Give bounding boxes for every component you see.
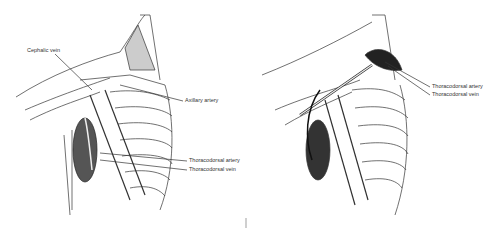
right-panel-drawing — [262, 15, 408, 215]
label-thoracodorsal-artery-right: Thoracodorsal artery — [432, 84, 483, 90]
label-axillary-artery: Axillary artery — [185, 98, 218, 104]
label-thoracodorsal-artery-left: Thoracodorsal artery — [189, 158, 240, 164]
label-cephalic-vein: Cephalic vein — [27, 48, 60, 54]
label-thoracodorsal-vein-right: Thoracodorsal vein — [432, 92, 479, 98]
left-panel-drawing — [16, 15, 172, 215]
anatomical-illustration — [0, 0, 494, 239]
label-thoracodorsal-vein-left: Thoracodorsal vein — [189, 167, 236, 173]
